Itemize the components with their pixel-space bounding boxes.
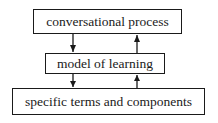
arrow-down-middle-to-bottom [70, 74, 76, 87]
arrow-up-bottom-to-middle [134, 75, 140, 88]
box-label: specific terms and components [25, 94, 192, 110]
arrow-up-middle-to-top [134, 35, 140, 53]
box-model-of-learning: model of learning [45, 53, 165, 74]
box-specific-terms-and-components: specific terms and components [12, 88, 205, 115]
box-label: model of learning [57, 56, 153, 72]
diagram-canvas: conversational process model of learning… [0, 0, 218, 123]
arrow-down-top-to-middle [70, 34, 76, 52]
box-conversational-process: conversational process [33, 9, 182, 34]
box-label: conversational process [46, 14, 169, 30]
